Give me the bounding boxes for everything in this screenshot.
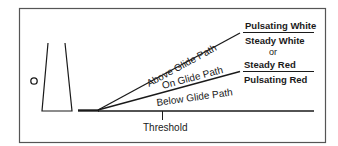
steady-red-label: Steady Red [244,59,296,70]
light-source-icon [31,78,37,84]
glide-path-diagram: Above Glide Path On Glide Path Below Gli… [0,0,338,146]
threshold-label: Threshold [143,122,187,133]
steady-white-label: Steady White [245,35,305,46]
pulsating-red-label: Pulsating Red [244,74,308,85]
pulsating-white-label: Pulsating White [245,20,316,31]
or-label: or [269,47,277,57]
runway-shape [42,43,72,111]
